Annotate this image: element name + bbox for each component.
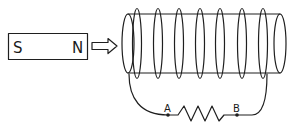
coil-turn (175, 9, 184, 79)
bar-magnet: S N (9, 34, 88, 60)
core-right-end (274, 14, 286, 73)
external-circuit: A B (129, 74, 267, 121)
coil-turn (259, 9, 268, 79)
coil-turn (196, 9, 205, 79)
coil-turn (154, 9, 163, 79)
magnet-north-label: N (72, 39, 83, 57)
resistor-icon (168, 106, 237, 121)
point-a-label: A (164, 103, 171, 114)
electromagnetic-induction-diagram: S N A B (0, 0, 293, 133)
coil-turn (216, 9, 225, 79)
wire-right (237, 74, 267, 115)
coil-windings (133, 9, 268, 79)
wire-left (129, 74, 168, 115)
point-b-label: B (233, 103, 240, 114)
coil-turn (238, 9, 247, 79)
motion-arrow-icon (92, 39, 117, 54)
magnet-south-label: S (13, 39, 23, 57)
